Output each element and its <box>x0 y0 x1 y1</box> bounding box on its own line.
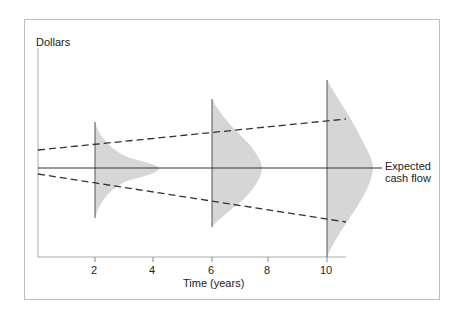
lower-bound-line <box>38 174 346 222</box>
x-axis-label: Time (years) <box>183 277 244 289</box>
x-tick-10: 10 <box>320 264 332 276</box>
x-tick-6: 6 <box>208 264 214 276</box>
upper-bound-line <box>38 119 346 150</box>
distribution-year-6 <box>212 99 262 227</box>
expected-label-line1: Expected <box>385 160 431 172</box>
x-tick-4: 4 <box>149 264 155 276</box>
distribution-year-2 <box>95 122 159 218</box>
x-tick-8: 8 <box>264 264 270 276</box>
x-tick-2: 2 <box>91 264 97 276</box>
y-axis-label: Dollars <box>36 36 70 48</box>
expected-label-line2: cash flow <box>385 172 431 184</box>
